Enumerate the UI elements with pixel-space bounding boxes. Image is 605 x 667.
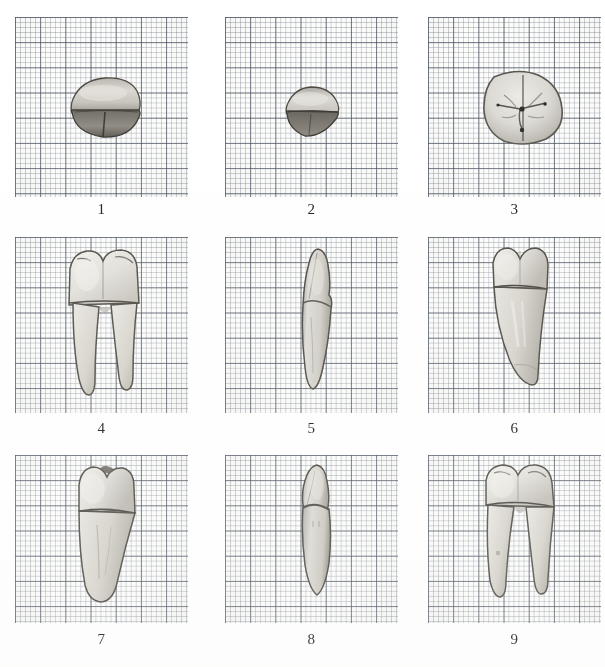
graph-paper-grid (428, 455, 601, 623)
specimen-panel-9 (428, 455, 601, 623)
specimen-panel-3 (428, 17, 601, 197)
specimen-plate: 1 2 (0, 0, 605, 667)
panel-caption-8: 8 (225, 632, 398, 647)
panel-caption-5: 5 (225, 421, 398, 436)
graph-paper-grid (225, 237, 398, 413)
graph-paper-grid (428, 17, 601, 197)
panel-caption-7: 7 (15, 632, 188, 647)
panel-caption-1: 1 (15, 202, 188, 217)
panel-caption-3: 3 (428, 202, 601, 217)
graph-paper-grid (225, 455, 398, 623)
graph-paper-grid (15, 237, 188, 413)
specimen-panel-6 (428, 237, 601, 413)
graph-paper-grid (225, 17, 398, 197)
specimen-panel-7 (15, 455, 188, 623)
graph-paper-grid (15, 17, 188, 197)
graph-paper-grid (15, 455, 188, 623)
panel-caption-4: 4 (15, 421, 188, 436)
specimen-panel-5 (225, 237, 398, 413)
specimen-panel-4 (15, 237, 188, 413)
specimen-panel-8 (225, 455, 398, 623)
panel-caption-2: 2 (225, 202, 398, 217)
panel-caption-6: 6 (428, 421, 601, 436)
specimen-panel-2 (225, 17, 398, 197)
graph-paper-grid (428, 237, 601, 413)
specimen-panel-1 (15, 17, 188, 197)
panel-caption-9: 9 (428, 632, 601, 647)
